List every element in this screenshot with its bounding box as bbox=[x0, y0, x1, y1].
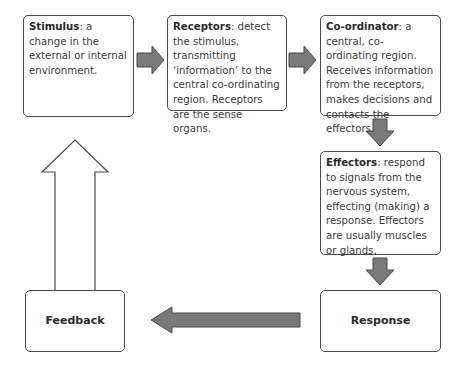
node-effectors-label: Effectors bbox=[326, 157, 377, 168]
arrow-left-icon bbox=[151, 307, 300, 333]
node-receptors: Receptors: detect the stimulus, transmit… bbox=[167, 15, 287, 111]
node-stimulus: Stimulus: a change in the external or in… bbox=[23, 15, 134, 117]
node-feedback: Feedback bbox=[25, 290, 125, 352]
node-receptors-label: Receptors bbox=[173, 21, 231, 32]
arrow-right-icon bbox=[137, 46, 164, 74]
arrow-right-icon bbox=[289, 46, 316, 74]
node-coordinator: Co-ordinator: a central, co-ordinating r… bbox=[320, 15, 441, 116]
node-coordinator-label: Co-ordinator bbox=[326, 21, 399, 32]
arrow-up-outline-icon bbox=[42, 140, 108, 291]
node-effectors-desc: : respond to signals from the nervous sy… bbox=[326, 157, 429, 256]
node-response: Response bbox=[320, 290, 441, 352]
node-feedback-label: Feedback bbox=[46, 314, 105, 329]
node-effectors: Effectors: respond to signals from the n… bbox=[320, 151, 441, 255]
arrow-down-icon bbox=[366, 258, 394, 285]
node-stimulus-label: Stimulus bbox=[29, 21, 79, 32]
node-response-label: Response bbox=[351, 314, 411, 329]
